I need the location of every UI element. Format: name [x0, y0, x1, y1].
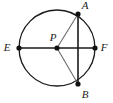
- geometry-figure: A B E F P: [0, 0, 113, 103]
- point-f-dot: [92, 45, 97, 50]
- circle-diagram-canvas: A B E F P: [0, 0, 113, 103]
- point-f-label: F: [100, 41, 108, 53]
- point-a-dot: [75, 11, 80, 16]
- radius-pa-line: [57, 14, 78, 48]
- point-a-label: A: [81, 0, 89, 11]
- point-e-dot: [16, 45, 21, 50]
- point-b-label: B: [82, 88, 89, 100]
- point-p-dot: [54, 45, 59, 50]
- point-b-dot: [75, 81, 80, 86]
- point-e-label: E: [3, 41, 11, 53]
- point-p-label: P: [49, 31, 57, 43]
- radius-pb-line: [57, 48, 78, 84]
